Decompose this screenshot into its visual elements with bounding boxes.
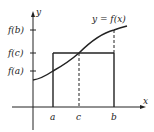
mean-value-rectangle [53, 53, 114, 107]
x-tick-label-c: c [76, 112, 81, 122]
curve-label: y = f(x) [91, 14, 126, 24]
diagram-canvas: y x y = f(x) f(b) f(c) f(a) a c b [0, 0, 154, 132]
x-tick-label-b: b [111, 112, 117, 122]
mvt-integral-diagram: y x y = f(x) f(b) f(c) f(a) a c b [0, 0, 154, 132]
x-axis-label: x [143, 96, 148, 106]
y-tick-label-fb: f(b) [7, 25, 25, 35]
y-tick-label-fa: f(a) [7, 66, 24, 76]
x-tick-label-a: a [50, 112, 55, 122]
y-tick-label-fc: f(c) [7, 48, 24, 58]
y-axis-arrow-icon [31, 11, 35, 17]
y-axis-label: y [35, 7, 42, 17]
